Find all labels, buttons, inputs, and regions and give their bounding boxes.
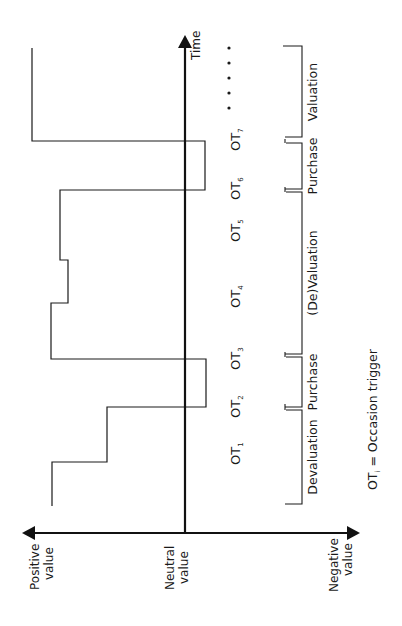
bracket-purchase-1 xyxy=(285,357,302,407)
occasion-trigger-4: OT4 xyxy=(228,285,245,308)
negative-arrowhead-icon xyxy=(347,526,360,540)
svg-text:value: value xyxy=(177,551,191,584)
phase-label-valuation: Valuation xyxy=(305,63,320,121)
bracket-devaluation-valuation xyxy=(285,192,302,354)
negative-value-label: Negative value xyxy=(327,538,355,592)
occasion-trigger-6: OT6 xyxy=(228,177,245,200)
bracket-valuation xyxy=(283,46,302,137)
bracket-devaluation xyxy=(285,410,302,504)
value-over-time-diagram: Time Positive value Neutral value Negati… xyxy=(0,0,402,626)
phase-label-devaluation-valuation: (De)Valuation xyxy=(305,230,320,315)
positive-arrowhead-icon xyxy=(22,526,35,540)
phase-label-devaluation: Devaluation xyxy=(305,419,320,494)
value-step-line xyxy=(32,48,206,506)
phase-label-purchase-2: Purchase xyxy=(305,137,320,194)
svg-text:value: value xyxy=(341,543,355,576)
occasion-trigger-2: OT2 xyxy=(228,395,245,418)
positive-value-label: Positive value xyxy=(28,544,56,590)
svg-text:Positive: Positive xyxy=(28,544,42,590)
occasion-trigger-7: OT7 xyxy=(228,128,245,151)
bracket-purchase-2 xyxy=(285,143,302,189)
time-axis-label: Time xyxy=(189,31,203,61)
phase-label-purchase-1: Purchase xyxy=(305,353,320,410)
svg-text:value: value xyxy=(42,547,56,580)
footnote-occasion-trigger: OTi = Occasion trigger xyxy=(365,348,382,490)
svg-text:Negative: Negative xyxy=(327,538,341,592)
svg-text:Neutral: Neutral xyxy=(163,546,177,590)
continuation-dots xyxy=(227,46,230,109)
occasion-trigger-1: OT1 xyxy=(228,442,245,465)
occasion-trigger-5: OT5 xyxy=(228,219,245,242)
occasion-trigger-3: OT3 xyxy=(228,347,245,370)
neutral-value-label: Neutral value xyxy=(163,546,191,590)
